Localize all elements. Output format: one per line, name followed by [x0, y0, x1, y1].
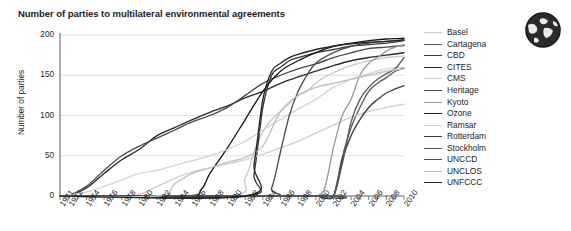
legend-swatch-icon [424, 159, 442, 160]
legend-item-unfccc[interactable]: UNFCCC [424, 177, 516, 189]
legend-item-label: UNFCCC [447, 177, 482, 188]
legend-swatch-icon [424, 32, 442, 33]
legend-swatch-icon [424, 67, 442, 68]
y-axis-tick-label: 200 [28, 30, 54, 39]
legend-item-label: Rotterdam [447, 131, 486, 142]
legend-item-cms[interactable]: CMS [424, 73, 516, 85]
page-title: Number of parties to multilateral enviro… [18, 8, 285, 19]
legend-swatch-icon [424, 182, 442, 183]
legend-item-unclos[interactable]: UNCLOS [424, 166, 516, 178]
legend-swatch-icon [424, 113, 442, 114]
series-line-heritage [60, 45, 404, 196]
legend-swatch-icon [424, 90, 442, 91]
legend-item-label: Stockholm [447, 143, 486, 154]
legend-item-label: Cartagena [447, 39, 486, 50]
legend-item-label: Kyoto [447, 97, 468, 108]
legend-item-cites[interactable]: CITES [424, 62, 516, 74]
legend-item-label: CMS [447, 73, 466, 84]
legend-item-label: CITES [447, 62, 472, 73]
legend-item-label: Heritage [447, 85, 479, 96]
legend-item-unccd[interactable]: UNCCD [424, 154, 516, 166]
legend-item-basel[interactable]: Basel [424, 27, 516, 39]
legend-item-label: CBD [447, 50, 465, 61]
legend-item-kyoto[interactable]: Kyoto [424, 96, 516, 108]
legend-swatch-icon [424, 78, 442, 79]
y-axis-tick-label: 0 [28, 191, 54, 200]
legend-item-stockholm[interactable]: Stockholm [424, 142, 516, 154]
legend-item-label: Ramsar [447, 120, 476, 131]
series-line-rotterdam [60, 86, 404, 199]
legend-item-label: UNCCD [447, 154, 477, 165]
legend-swatch-icon [424, 125, 442, 126]
y-axis-tick-label: 50 [28, 151, 54, 160]
legend-item-cartagena[interactable]: Cartagena [424, 39, 516, 51]
chart-page: Number of parties to multilateral enviro… [0, 0, 571, 231]
plot-area: Number of parties 0501001502001971197219… [0, 26, 430, 231]
legend-item-label: Ozone [447, 108, 472, 119]
legend-swatch-icon [424, 55, 442, 56]
y-axis-tick-label: 100 [28, 111, 54, 120]
legend-item-heritage[interactable]: Heritage [424, 85, 516, 97]
legend-item-label: UNCLOS [447, 166, 482, 177]
chart-legend: BaselCartagenaCBDCITESCMSHeritageKyotoOz… [424, 27, 516, 189]
legend-swatch-icon [424, 148, 442, 149]
y-axis-tick-label: 150 [28, 70, 54, 79]
legend-swatch-icon [424, 102, 442, 103]
legend-swatch-icon [424, 136, 442, 137]
globe-icon [521, 8, 565, 52]
legend-item-ozone[interactable]: Ozone [424, 108, 516, 120]
legend-item-cbd[interactable]: CBD [424, 50, 516, 62]
legend-swatch-icon [424, 44, 442, 45]
legend-item-ramsar[interactable]: Ramsar [424, 119, 516, 131]
series-line-basel [60, 56, 404, 197]
series-line-kyoto [60, 45, 404, 197]
legend-item-label: Basel [447, 27, 468, 38]
legend-swatch-icon [424, 171, 442, 172]
y-axis-label: Number of parties [17, 58, 26, 148]
legend-item-rotterdam[interactable]: Rotterdam [424, 131, 516, 143]
